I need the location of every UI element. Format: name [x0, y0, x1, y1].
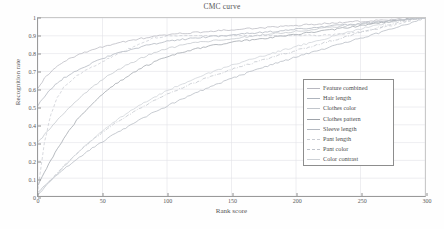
y-tick-label: 0.5 [29, 105, 37, 111]
x-tick-mark [297, 193, 298, 196]
y-tick-label: 0.8 [29, 51, 37, 57]
y-tick-label: 0.7 [29, 69, 37, 75]
y-tick-mark [38, 180, 41, 181]
x-tick-label: 300 [423, 198, 432, 204]
y-tick-mark [38, 54, 41, 55]
x-tick-label: 150 [228, 198, 237, 204]
x-tick-mark [102, 193, 103, 196]
x-tick-mark [362, 193, 363, 196]
legend-line-icon [306, 115, 321, 122]
legend-label: Hair length [323, 95, 351, 101]
legend-line-icon [306, 146, 321, 153]
legend-item[interactable]: Clothes color [306, 103, 391, 113]
legend-item[interactable]: Color contrast [306, 154, 391, 164]
x-tick-mark [38, 193, 39, 196]
legend-line-icon [306, 125, 321, 132]
legend-item[interactable]: Clothes pattern [306, 114, 391, 124]
x-tick-label: 200 [293, 198, 302, 204]
x-tick-label: 100 [163, 198, 172, 204]
legend-item[interactable]: Hair length [306, 93, 391, 103]
x-tick-label: 50 [100, 198, 106, 204]
y-axis-label: Recognition rate [14, 27, 22, 137]
y-tick-mark [38, 108, 41, 109]
legend-label: Pant length [323, 136, 351, 142]
y-tick-label: 0.1 [29, 177, 37, 183]
y-tick-mark [38, 144, 41, 145]
legend-line-icon [306, 136, 321, 143]
legend-item[interactable]: Sleeve length [306, 124, 391, 134]
legend-label: Clothes color [323, 105, 356, 111]
legend-line-icon [306, 156, 321, 163]
y-tick-label: 0.4 [29, 123, 37, 129]
legend-label: Color contrast [323, 156, 358, 162]
y-tick-label: 0.3 [29, 141, 37, 147]
y-tick-label: 1 [33, 15, 36, 21]
legend-item[interactable]: Pant length [306, 134, 391, 144]
legend[interactable]: Feature combinedHair lengthClothes color… [303, 79, 394, 166]
legend-line-icon [306, 105, 321, 112]
x-tick-label: 0 [37, 198, 40, 204]
legend-line-icon [306, 95, 321, 102]
y-tick-mark [38, 18, 41, 19]
curve-feature-combined [38, 18, 425, 88]
legend-item[interactable]: Feature combined [306, 83, 391, 93]
legend-label: Sleeve length [323, 126, 357, 132]
y-tick-mark [38, 162, 41, 163]
legend-label: Clothes pattern [323, 116, 361, 122]
y-tick-mark [38, 72, 41, 73]
y-tick-mark [38, 36, 41, 37]
x-tick-label: 250 [358, 198, 367, 204]
legend-line-icon [306, 85, 321, 92]
y-tick-label: 0.6 [29, 87, 37, 93]
y-tick-mark [38, 90, 41, 91]
chart-title: CMC curve [0, 2, 444, 11]
chart-figure: CMC curve 00.10.20.30.40.50.60.70.80.91 … [0, 0, 444, 229]
x-tick-mark [427, 193, 428, 196]
y-tick-mark [38, 126, 41, 127]
legend-item[interactable]: Pant color [306, 144, 391, 154]
x-tick-mark [232, 193, 233, 196]
x-axis-label: Rank score [37, 207, 426, 215]
legend-label: Feature combined [323, 85, 368, 91]
legend-label: Pant color [323, 146, 348, 152]
y-tick-label: 0.2 [29, 159, 37, 165]
x-tick-mark [167, 193, 168, 196]
y-tick-label: 0.9 [29, 33, 37, 39]
